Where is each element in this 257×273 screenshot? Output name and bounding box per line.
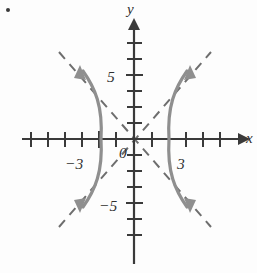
y-tick-label-negative-5: −5 (99, 198, 117, 214)
plot-canvas (0, 0, 257, 273)
x-tick-label-3: 3 (177, 156, 185, 172)
hyperbola-graph-figure: y x 0 5 −5 3 −3 (0, 0, 257, 273)
x-tick-label-negative-3: −3 (65, 156, 83, 172)
y-axis (126, 18, 143, 264)
x-axis (22, 131, 250, 148)
origin-label: 0 (119, 145, 127, 161)
x-axis-label: x (246, 131, 253, 146)
y-tick-label-5: 5 (107, 69, 115, 85)
y-axis-arrowhead-icon (128, 18, 140, 30)
y-axis-label: y (127, 2, 134, 17)
